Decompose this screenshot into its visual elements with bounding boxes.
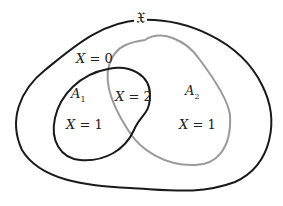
region-var: X — [76, 51, 85, 66]
region-label-intersection: X = 2 — [115, 90, 152, 103]
set-subscript: 2 — [194, 92, 199, 101]
region-var: X — [179, 117, 188, 132]
set-label-a2: A2 — [185, 84, 199, 101]
region-eq: = 1 — [188, 117, 215, 132]
set-subscript: 1 — [80, 95, 85, 104]
set-label-a1: A1 — [71, 87, 85, 104]
set-name: A — [71, 86, 80, 101]
region-label-a2-only: X = 1 — [179, 118, 216, 131]
region-label-a1-only: X = 1 — [66, 118, 103, 131]
universe-label: 𝔛 — [134, 11, 147, 26]
set-name: A — [185, 83, 194, 98]
region-var: X — [115, 89, 124, 104]
region-eq: = 0 — [85, 51, 112, 66]
region-eq: = 2 — [124, 89, 151, 104]
region-var: X — [66, 117, 75, 132]
region-label-outside: X = 0 — [76, 52, 113, 65]
universe-boundary — [16, 20, 271, 191]
venn-diagram: 𝔛 X = 0 A1 X = 2 A2 X = 1 X = 1 — [0, 0, 283, 206]
set-a1-boundary — [54, 68, 150, 160]
region-eq: = 1 — [75, 117, 102, 132]
